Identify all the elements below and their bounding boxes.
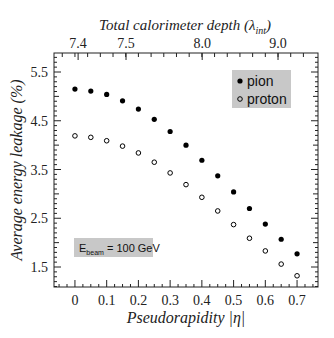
proton-point bbox=[136, 151, 141, 156]
pion-point bbox=[152, 117, 157, 122]
proton-point bbox=[184, 182, 189, 187]
proton-point bbox=[247, 236, 252, 241]
x-tick-label: 0 bbox=[71, 293, 78, 308]
x-tick-label: 0.5 bbox=[225, 293, 243, 308]
pion-point bbox=[231, 189, 236, 194]
pion-point bbox=[88, 88, 93, 93]
x-tick-label: 0.3 bbox=[161, 293, 179, 308]
proton-point bbox=[200, 195, 205, 200]
pion-marker-icon bbox=[237, 78, 242, 83]
pion-point bbox=[72, 86, 77, 91]
legend: pion proton bbox=[232, 70, 291, 108]
pion-point bbox=[263, 222, 268, 227]
top-axis-title: Total calorimeter depth (λint) bbox=[99, 17, 271, 36]
top-tick-label: 9.0 bbox=[269, 36, 287, 51]
top-tick-label: 7.4 bbox=[69, 36, 87, 51]
top-tick-label: 8.0 bbox=[193, 36, 211, 51]
y-tick-label: 2.5 bbox=[31, 211, 49, 226]
legend-pion-label: pion bbox=[247, 73, 273, 89]
pion-point bbox=[104, 92, 109, 97]
proton-point bbox=[168, 171, 173, 176]
proton-point bbox=[152, 160, 157, 165]
pion-point bbox=[294, 251, 299, 256]
y-tick-label: 5.5 bbox=[31, 65, 49, 80]
pion-point bbox=[120, 98, 125, 103]
proton-point bbox=[279, 262, 284, 267]
x-tick-label: 0.1 bbox=[98, 293, 116, 308]
x-tick-label: 0.6 bbox=[257, 293, 275, 308]
y-tick-label: 4.5 bbox=[31, 114, 49, 129]
x-axis-title: Pseudorapidity |η| bbox=[126, 309, 246, 327]
y-tick-label: 3.5 bbox=[31, 163, 49, 178]
pion-point bbox=[215, 173, 220, 178]
proton-point bbox=[263, 249, 268, 254]
pion-point bbox=[247, 206, 252, 211]
top-axis-ticks: 7.47.58.09.0 bbox=[62, 36, 303, 60]
x-axis-ticks: 00.10.20.30.40.50.60.7 bbox=[59, 280, 313, 308]
proton-point bbox=[120, 144, 125, 149]
x-tick-label: 0.7 bbox=[288, 293, 306, 308]
proton-point bbox=[104, 138, 109, 143]
chart: Total calorimeter depth (λint) 7.47.58.0… bbox=[0, 0, 334, 338]
legend-proton-label: proton bbox=[247, 91, 287, 107]
pion-point bbox=[279, 237, 284, 242]
pion-point bbox=[136, 106, 141, 111]
pion-series bbox=[72, 86, 299, 256]
pion-point bbox=[183, 143, 188, 148]
beam-energy-annotation: Ebeam = 100 GeV bbox=[74, 238, 160, 257]
pion-point bbox=[199, 158, 204, 163]
top-tick-label: 7.5 bbox=[117, 36, 135, 51]
y-tick-label: 1.5 bbox=[31, 260, 49, 275]
proton-point bbox=[295, 273, 300, 278]
pion-point bbox=[168, 129, 173, 134]
proton-point bbox=[215, 209, 220, 214]
proton-point bbox=[73, 134, 78, 139]
x-tick-label: 0.4 bbox=[193, 293, 211, 308]
proton-point bbox=[231, 222, 236, 227]
x-tick-label: 0.2 bbox=[130, 293, 148, 308]
y-axis-title: Average energy leakage (%) bbox=[8, 79, 26, 261]
proton-point bbox=[89, 135, 94, 140]
